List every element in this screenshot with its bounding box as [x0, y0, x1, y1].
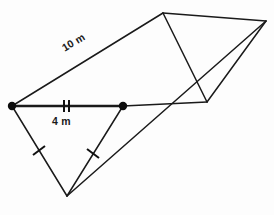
tick-mark-left-leg: [33, 146, 45, 155]
prism-wireframe: [0, 0, 274, 215]
tick-mark-right-leg: [87, 149, 99, 158]
edge-front-bottom-to-back-right: [67, 21, 266, 196]
vertex-dot-front-right: [119, 102, 127, 110]
edge-back-top-to-back-right: [163, 13, 266, 21]
edge-back-top-to-back-bottom: [163, 13, 207, 102]
edge-front-right-to-front-bottom: [67, 106, 123, 196]
prism-figure: 10 m 4 m: [0, 0, 274, 215]
edge-front-left-to-back-top: [12, 13, 163, 106]
vertex-dot-front-left: [8, 102, 16, 110]
edge-back-right-to-back-bottom: [207, 21, 266, 102]
base-label-4m: 4 m: [52, 116, 71, 127]
edge-front-right-to-back-bottom: [123, 102, 207, 106]
